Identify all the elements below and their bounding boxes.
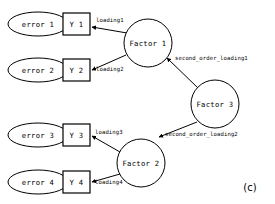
node-label-y3: Y 3 [70, 131, 84, 140]
node-label-y4: Y 4 [70, 178, 84, 187]
figure-canvas: error 1error 2error 3error 4Y 1Y 2Y 3Y 4… [0, 0, 275, 204]
node-label-error3: error 3 [22, 131, 54, 140]
edge-e-f2-y3 [92, 136, 120, 152]
node-label-factor1: Factor 1 [129, 39, 166, 48]
edge-label-e-f3-f1: second_order_loading1 [175, 55, 248, 62]
node-label-y2: Y 2 [70, 66, 84, 75]
node-label-factor2: Factor 2 [122, 159, 159, 168]
nodes-layer: error 1error 2error 3error 4Y 1Y 2Y 3Y 4… [8, 12, 239, 194]
edge-label-e-f2-y4: loading4 [95, 179, 123, 186]
path-diagram: error 1error 2error 3error 4Y 1Y 2Y 3Y 4… [0, 0, 275, 204]
edge-label-e-f3-f2: second_order_loading2 [165, 131, 238, 138]
edge-label-e-f1-y1: loading1 [96, 17, 124, 24]
node-label-error1: error 1 [22, 20, 54, 29]
node-label-error4: error 4 [22, 178, 54, 187]
panel-label: (c) [243, 182, 256, 193]
edge-label-e-f2-y3: loading3 [95, 129, 123, 136]
node-label-y1: Y 1 [70, 20, 84, 29]
edge-label-e-f1-y2: loading2 [96, 66, 124, 73]
edge-e-f3-f1 [167, 58, 198, 88]
edge-e-f1-y1 [92, 27, 127, 33]
node-label-error2: error 2 [22, 66, 54, 75]
node-label-factor3: Factor 3 [196, 100, 233, 109]
